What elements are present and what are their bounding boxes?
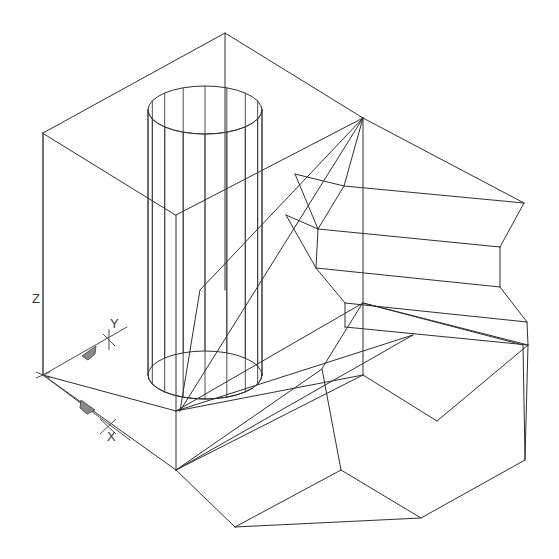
prism-mid-left-edge bbox=[316, 229, 318, 268]
box-bottom-rear-left-edge bbox=[43, 375, 176, 411]
prism-mid-face-edge bbox=[316, 268, 500, 287]
cad-viewport[interactable]: Z Y X bbox=[0, 0, 559, 559]
prism-lower-chamfer-left bbox=[316, 268, 345, 303]
ucs-x-label: X bbox=[107, 429, 116, 444]
ucs-y-label: Y bbox=[110, 316, 119, 331]
extrusion-path-lines[interactable] bbox=[180, 118, 363, 411]
box-bottom-front-edge bbox=[176, 335, 413, 470]
hex-left-connector bbox=[176, 369, 322, 470]
tray-slant-right bbox=[363, 375, 437, 421]
diag-upper-right-to-midpoint bbox=[200, 118, 363, 290]
hex-outline bbox=[322, 303, 525, 518]
hex-base-rear-connector bbox=[176, 470, 235, 527]
prism-upper-chamfer-face bbox=[318, 229, 500, 247]
ucs-z-label: Z bbox=[32, 291, 40, 306]
lower-tray-faces[interactable] bbox=[176, 345, 528, 421]
chamfered-prismatic-block[interactable] bbox=[286, 118, 528, 345]
hex-upper-tie bbox=[363, 303, 528, 345]
box-bottom-right-edge bbox=[176, 375, 363, 470]
prism-bottom-face-edge bbox=[345, 327, 528, 345]
rectangular-box-solid[interactable] bbox=[43, 33, 413, 470]
tray-right-cap bbox=[437, 345, 528, 421]
hex-base-spine bbox=[235, 470, 341, 527]
prism-lower-chamfer-right bbox=[500, 287, 527, 322]
prism-upper-chamfer-right bbox=[500, 203, 524, 247]
wireframe-drawing-canvas[interactable]: Z Y X bbox=[0, 0, 559, 559]
prism-back-edge-upper bbox=[295, 174, 344, 186]
hex-lower-slant bbox=[176, 335, 413, 411]
ucs-y-axis-line bbox=[43, 327, 127, 375]
prism-back-edge-lower bbox=[286, 215, 316, 268]
ucs-y-arrow-cone bbox=[82, 346, 96, 360]
box-top-face bbox=[43, 33, 363, 215]
diag-upper-right-to-cylinder-base bbox=[180, 118, 363, 411]
box-bottom-left-edge bbox=[43, 375, 176, 470]
hex-bottom-connector bbox=[235, 518, 421, 527]
ucs-icon[interactable]: Z Y X bbox=[32, 133, 130, 444]
prism-upper-chamfer-left bbox=[318, 186, 344, 229]
hexagonal-end-face[interactable] bbox=[176, 303, 528, 527]
prism-bottom-right-edge bbox=[527, 322, 528, 345]
box-bottom-back-edge bbox=[176, 303, 363, 411]
hex-side-edge-right bbox=[525, 345, 528, 460]
